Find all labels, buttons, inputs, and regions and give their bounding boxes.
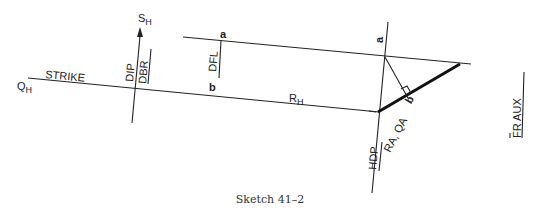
s-h-label: SH (138, 12, 152, 27)
q-h-label: QH (17, 80, 32, 95)
dip-label: DIP (123, 63, 137, 82)
dfl-line (219, 40, 221, 78)
point-b-left: b (209, 81, 216, 93)
point-a-right: a (373, 36, 385, 43)
dfl-label: DFL (206, 50, 220, 72)
top-parallel-line (183, 37, 471, 64)
strike-label: STRIKE (45, 68, 86, 84)
thick-plane-line (378, 64, 460, 112)
sketch-caption: Sketch 41–2 (236, 193, 304, 206)
r-h-label: RH (289, 92, 303, 107)
sketch-diagram: QH STRIKE SH DIP DBR DFL a b RH a b HDP … (0, 0, 541, 213)
ra-qa-label: RA, QA (381, 115, 409, 154)
fr-aux-label: FR AUX (511, 98, 523, 138)
arrow-head-icon (137, 27, 143, 37)
perpendicular-line (385, 57, 408, 98)
point-a-left: a (220, 28, 227, 40)
hdp-label: HDP (366, 146, 380, 170)
